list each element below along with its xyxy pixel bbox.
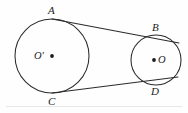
- upper-tangent-line: [52, 19, 179, 43]
- point-label-a: A: [48, 5, 55, 16]
- point-label-c: C: [48, 96, 55, 107]
- right-circle: [131, 35, 181, 85]
- right-center-label: O: [158, 55, 166, 66]
- point-label-b: B: [152, 22, 159, 33]
- left-center-dot: [50, 54, 54, 58]
- point-label-d: D: [151, 86, 159, 97]
- left-center-label: O': [34, 51, 44, 62]
- right-center-dot: [152, 58, 156, 62]
- geometry-figure: A B C D O' O: [0, 0, 188, 113]
